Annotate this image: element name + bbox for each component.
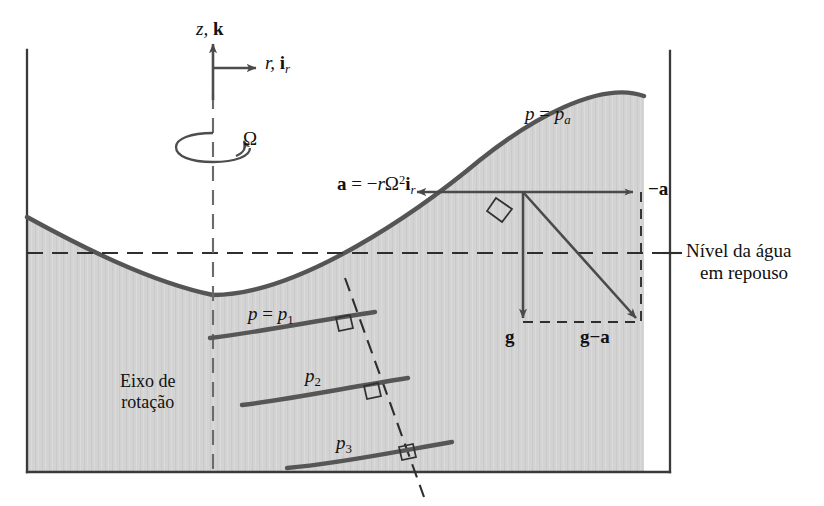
acceleration-equation-label: a = −rΩ2ir <box>337 173 416 197</box>
free-surface-pressure-label: p = pa <box>525 103 571 127</box>
z-axis-label: z, k <box>196 18 223 40</box>
water-level-caption: Nível da água em repouso <box>686 240 792 285</box>
axis-of-rotation-caption-line1: Eixo de <box>120 371 176 391</box>
minus-a-vector-label: −a <box>648 178 668 200</box>
axis-of-rotation-caption: Eixo de rotação <box>120 371 176 413</box>
gravity-vector-label: g <box>505 326 515 348</box>
coordinate-axes <box>213 44 256 100</box>
water-level-caption-line2: em repouso <box>700 262 792 284</box>
g-minus-a-vector-label: g−a <box>580 326 610 348</box>
fluid-region <box>27 92 644 472</box>
rotation-rate-label: Ω <box>243 128 257 150</box>
isobar-label-p2: p2 <box>305 365 321 389</box>
r-axis-label: r, ir <box>265 52 290 76</box>
isobar-label-p1: p = p1 <box>248 303 294 327</box>
water-level-caption-line1: Nível da água <box>686 240 792 261</box>
rotating-fluid-diagram: z, k r, ir Ω p = pa a = −rΩ2ir −a Nível … <box>0 0 824 506</box>
axis-of-rotation-caption-line2: rotação <box>120 392 176 413</box>
isobar-label-p3: p3 <box>336 432 352 456</box>
